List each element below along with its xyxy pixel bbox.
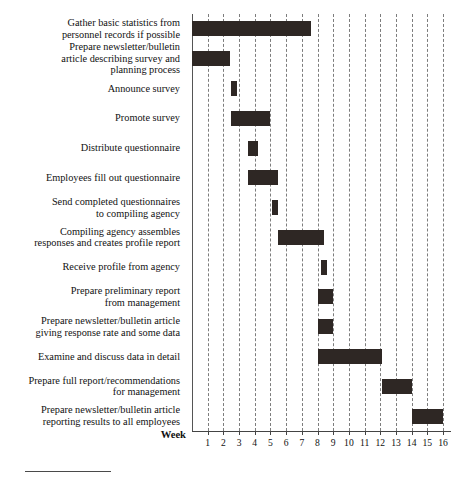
gridline-week-14 <box>412 14 413 431</box>
gridline-week-8 <box>318 14 319 431</box>
gantt-plot-area: 12345678910111213141516 <box>192 14 451 431</box>
x-tick-5 <box>270 431 271 435</box>
gridline-week-3 <box>239 14 240 431</box>
x-tick-9 <box>333 431 334 435</box>
x-tick-label-2: 2 <box>221 437 226 448</box>
gridline-week-6 <box>286 14 287 431</box>
y-axis-line <box>192 14 193 431</box>
task-label-line: Receive profile from agency <box>63 261 181 273</box>
x-tick-label-11: 11 <box>360 437 369 448</box>
x-tick-14 <box>412 431 413 435</box>
task-label-line: reporting results to all employees <box>43 416 180 428</box>
task-label-line: giving response rate and some data <box>36 327 180 339</box>
x-tick-label-8: 8 <box>315 437 320 448</box>
gridline-week-4 <box>255 14 256 431</box>
x-tick-4 <box>255 431 256 435</box>
task-label-line: Prepare full report/recommendations <box>28 375 180 387</box>
task-label: Send completed questionnairesto compilin… <box>0 193 186 223</box>
gridline-week-13 <box>396 14 397 431</box>
x-tick-1 <box>208 431 209 435</box>
x-tick-3 <box>239 431 240 435</box>
x-tick-label-12: 12 <box>375 437 385 448</box>
gridline-week-2 <box>223 14 224 431</box>
footnote-divider <box>25 471 111 472</box>
task-label: Promote survey <box>0 103 186 133</box>
gantt-bar <box>248 170 278 185</box>
task-label-line: to compiling agency <box>96 208 180 220</box>
task-label-line: for management <box>113 386 180 398</box>
x-tick-2 <box>223 431 224 435</box>
gridline-week-11 <box>365 14 366 431</box>
gantt-chart: Gather basic statistics frompersonnel re… <box>0 0 467 484</box>
task-label-line: Prepare preliminary report <box>71 285 180 297</box>
task-label: Prepare newsletter/bulletin articlerepor… <box>0 401 186 431</box>
gridline-week-12 <box>380 14 381 431</box>
task-label-line: Gather basic statistics from <box>68 17 180 29</box>
task-label: Prepare newsletter/bulletin articlegivin… <box>0 312 186 342</box>
x-tick-label-6: 6 <box>284 437 289 448</box>
gridline-week-1 <box>208 14 209 431</box>
x-tick-13 <box>396 431 397 435</box>
gantt-bar <box>318 349 382 364</box>
gridline-week-10 <box>349 14 350 431</box>
gantt-bar <box>231 81 237 96</box>
gantt-bar <box>412 409 443 424</box>
task-label: Prepare newsletter/bulletinarticle descr… <box>0 44 186 74</box>
task-label: Gather basic statistics frompersonnel re… <box>0 14 186 44</box>
gridline-week-5 <box>270 14 271 431</box>
gantt-bar <box>272 200 278 215</box>
gridline-week-15 <box>427 14 428 431</box>
x-tick-label-13: 13 <box>391 437 401 448</box>
x-tick-16 <box>443 431 444 435</box>
task-label: Prepare full report/recommendationsfor m… <box>0 371 186 401</box>
x-tick-12 <box>380 431 381 435</box>
task-label-line: Distribute questionnaire <box>81 142 180 154</box>
x-tick-label-7: 7 <box>299 437 304 448</box>
gridline-week-9 <box>333 14 334 431</box>
x-tick-label-9: 9 <box>331 437 336 448</box>
x-tick-label-5: 5 <box>268 437 273 448</box>
x-tick-label-4: 4 <box>252 437 257 448</box>
x-tick-6 <box>286 431 287 435</box>
gantt-bar <box>318 319 334 334</box>
gridline-week-16 <box>443 14 444 431</box>
task-label: Distribute questionnaire <box>0 133 186 163</box>
gantt-bar <box>248 141 257 156</box>
task-label-line: Examine and discuss data in detail <box>38 351 180 363</box>
gantt-bar <box>192 51 230 66</box>
gantt-bar <box>318 289 334 304</box>
task-label-line: responses and creates profile report <box>34 237 180 249</box>
x-tick-label-1: 1 <box>205 437 210 448</box>
week-axis-caption: Week <box>96 429 192 440</box>
x-tick-label-15: 15 <box>423 437 433 448</box>
gantt-bar <box>192 21 311 36</box>
x-tick-10 <box>349 431 350 435</box>
task-label-line: personnel records if possible <box>62 29 180 41</box>
x-tick-11 <box>365 431 366 435</box>
task-label-line: from management <box>105 297 180 309</box>
x-tick-7 <box>302 431 303 435</box>
x-tick-label-14: 14 <box>407 437 417 448</box>
task-label-line: planning process <box>111 64 181 76</box>
task-label: Compiling agency assemblesresponses and … <box>0 222 186 252</box>
x-tick-label-16: 16 <box>438 437 448 448</box>
task-label: Examine and discuss data in detail <box>0 342 186 372</box>
task-label-line: Compiling agency assembles <box>60 226 180 238</box>
task-label: Employees fill out questionnaire <box>0 163 186 193</box>
task-label: Announce survey <box>0 74 186 104</box>
task-label-line: Announce survey <box>108 83 180 95</box>
gantt-bar <box>382 379 412 394</box>
gantt-bar <box>278 230 323 245</box>
task-label-line: Prepare newsletter/bulletin article <box>41 315 180 327</box>
task-label-line: Promote survey <box>115 112 180 124</box>
task-label-line: Prepare newsletter/bulletin article <box>41 404 180 416</box>
task-label: Prepare preliminary reportfrom managemen… <box>0 282 186 312</box>
gantt-bar <box>321 260 327 275</box>
gridline-week-7 <box>302 14 303 431</box>
x-tick-8 <box>318 431 319 435</box>
task-label-line: article describing survey and <box>61 53 180 65</box>
gantt-bar <box>231 111 270 126</box>
task-label-line: Prepare newsletter/bulletin <box>69 41 180 53</box>
x-tick-label-3: 3 <box>237 437 242 448</box>
task-label: Receive profile from agency <box>0 252 186 282</box>
